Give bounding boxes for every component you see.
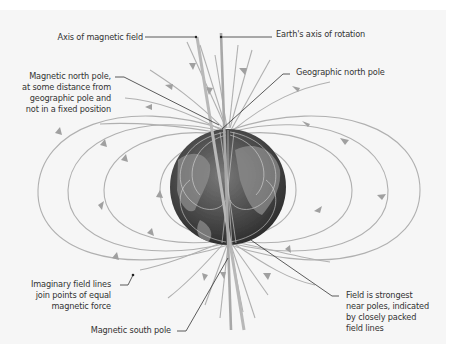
label-field-lines: Imaginary field lines join points of equ… xyxy=(31,279,111,312)
label-field-strongest: Field is strongest near poles, indicated… xyxy=(346,290,429,334)
label-magnetic-north-line3: geographic pole and xyxy=(22,93,111,104)
label-field-lines-line2: join points of equal xyxy=(31,290,111,301)
label-field-strongest-line2: near poles, indicated xyxy=(346,301,429,312)
label-axis-rotation: Earth's axis of rotation xyxy=(276,29,365,40)
label-field-lines-line3: magnetic force xyxy=(31,301,111,312)
label-field-strongest-line4: field lines xyxy=(346,323,429,334)
label-field-strongest-line3: by closely packed xyxy=(346,312,429,323)
label-magnetic-north-line2: at some distance from xyxy=(22,82,111,93)
label-magnetic-north: Magnetic north pole, at some distance fr… xyxy=(22,71,111,115)
label-magnetic-south: Magnetic south pole xyxy=(91,325,171,336)
label-field-lines-line1: Imaginary field lines xyxy=(31,279,111,290)
label-magnetic-north-line1: Magnetic north pole, xyxy=(22,71,111,82)
label-geographic-north: Geographic north pole xyxy=(296,67,385,78)
label-magnetic-north-line4: not in a fixed position xyxy=(22,104,111,115)
label-field-strongest-line1: Field is strongest xyxy=(346,290,429,301)
label-axis-magnetic: Axis of magnetic field xyxy=(58,32,143,43)
